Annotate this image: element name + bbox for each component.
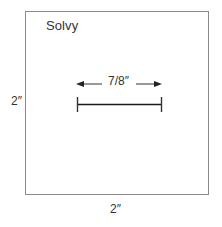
width-label: 2″ [110, 202, 121, 216]
height-label: 2″ [11, 94, 22, 108]
left-arrow-icon [76, 81, 102, 87]
dimension-graphics [0, 0, 222, 227]
measurement-bar [77, 97, 162, 112]
right-arrow-icon [136, 81, 162, 87]
measurement-label: 7/8″ [108, 74, 129, 88]
